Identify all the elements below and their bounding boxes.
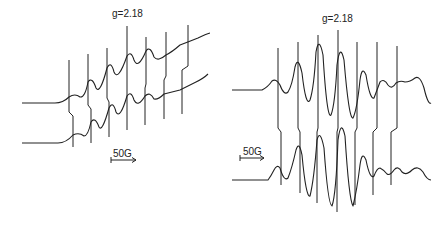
hyperfine-stick-line	[69, 60, 73, 147]
right-spectrum-traces	[232, 44, 431, 206]
right-stick-diagram	[278, 30, 397, 212]
hyperfine-stick-line	[145, 37, 146, 125]
right-panel: g=2.18 50G	[232, 13, 431, 212]
lower-spectrum-trace	[22, 74, 208, 143]
hyperfine-stick-line	[278, 48, 281, 185]
hyperfine-stick-line	[164, 32, 166, 119]
right-g-value-label: g=2.18	[322, 13, 353, 24]
upper-spectrum-trace	[232, 44, 431, 118]
hyperfine-stick-line	[355, 42, 357, 205]
left-panel: g=2.18 50G	[22, 8, 210, 163]
hyperfine-stick-line	[391, 46, 397, 185]
hyperfine-stick-line	[317, 35, 318, 203]
hyperfine-stick-line	[182, 25, 188, 114]
hyperfine-stick-line	[373, 42, 377, 195]
left-scale-bar-label: 50G	[113, 148, 132, 159]
left-g-value-label: g=2.18	[112, 8, 143, 19]
hyperfine-stick-line	[107, 48, 109, 137]
lower-spectrum-trace	[232, 128, 431, 206]
epr-figure: g=2.18 50G g=2.18 50G	[0, 0, 439, 225]
hyperfine-stick-line	[337, 30, 338, 212]
epr-spectra-chart: g=2.18 50G g=2.18 50G	[0, 0, 439, 225]
right-scale-bar-label: 50G	[243, 146, 262, 157]
